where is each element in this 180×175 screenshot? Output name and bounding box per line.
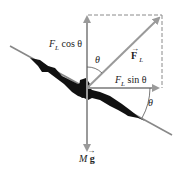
- label-fl-sin-theta: FL sin θ: [115, 74, 146, 88]
- label-theta-wing: θ: [148, 97, 153, 108]
- lift-force-diagram: FL cos θ θ → F L FL sin θ θ M →g: [0, 0, 180, 175]
- label-theta-top: θ: [95, 54, 100, 65]
- label-mg: M →g: [79, 153, 95, 164]
- label-lift-force-vector: → F L: [131, 50, 143, 64]
- theta-arc-top: [87, 67, 102, 73]
- label-fl-cos-theta: FL cos θ: [49, 38, 82, 52]
